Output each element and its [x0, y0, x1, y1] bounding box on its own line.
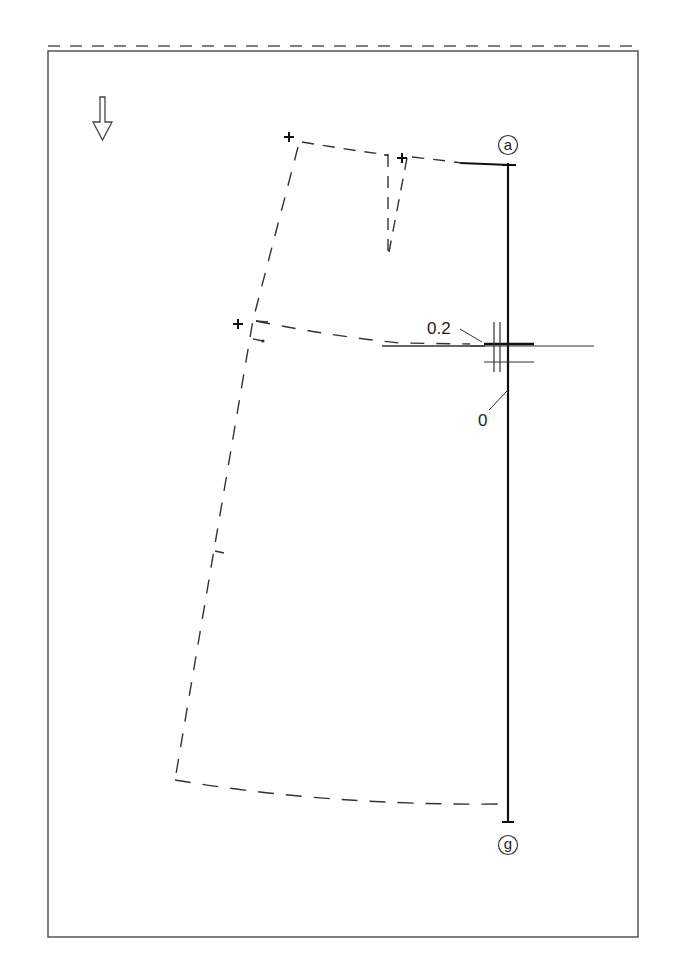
plus-marker — [233, 319, 243, 329]
hem-line — [175, 780, 505, 804]
pattern-diagram: a g 0.2 0 — [0, 0, 680, 979]
side-seam — [175, 147, 298, 780]
waist-solid-segment — [460, 163, 510, 165]
hip-notch — [253, 321, 268, 343]
dart — [384, 155, 407, 252]
svg-text:0.2: 0.2 — [427, 319, 451, 338]
point-g-label: g — [499, 835, 518, 855]
measurement-0: 0 — [478, 391, 507, 430]
plus-marker — [397, 153, 407, 163]
svg-text:a: a — [504, 136, 513, 153]
page-frame — [48, 46, 638, 937]
knee-notch — [215, 551, 224, 553]
svg-text:0: 0 — [478, 411, 487, 430]
plus-marker — [284, 132, 294, 142]
grain-arrow-icon — [93, 97, 112, 140]
point-a-label: a — [499, 136, 518, 155]
center-line — [502, 163, 516, 822]
measurement-0-2: 0.2 — [427, 319, 482, 342]
waist-line-right — [412, 157, 462, 163]
waist-line — [302, 142, 388, 155]
svg-text:g: g — [504, 835, 512, 852]
